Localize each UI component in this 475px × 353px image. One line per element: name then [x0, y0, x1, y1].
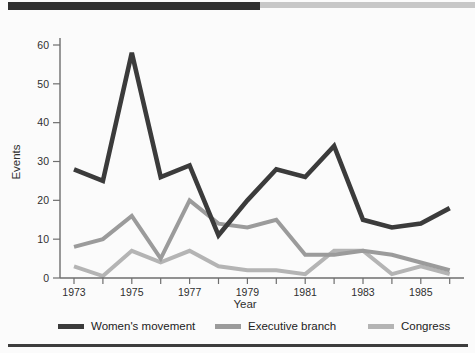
- legend-item: Executive branch: [215, 316, 336, 336]
- legend-swatch: [368, 324, 394, 329]
- legend-item: Women's movement: [58, 316, 195, 336]
- y-tick-label: 10: [37, 233, 49, 245]
- page-footer-rule: [8, 344, 468, 347]
- series-line-executive-branch: [74, 200, 450, 270]
- series-line-women-s-movement: [74, 53, 450, 236]
- y-tick-label: 20: [37, 194, 49, 206]
- y-tick-label: 60: [37, 39, 49, 51]
- x-axis-title: Year: [233, 298, 256, 310]
- header-bar-light: [260, 2, 475, 8]
- header-bar-dark: [8, 2, 260, 10]
- y-tick-label: 0: [43, 272, 49, 284]
- legend-label: Congress: [401, 320, 450, 332]
- legend-swatch: [58, 324, 84, 329]
- y-tick-label: 50: [37, 78, 49, 90]
- x-tick-label: 1977: [178, 286, 202, 298]
- y-axis-title: Events: [10, 144, 22, 179]
- page-header-rule: [8, 2, 475, 10]
- y-tick-label: 30: [37, 155, 49, 167]
- y-tick-label: 40: [37, 116, 49, 128]
- x-axis-ticks: 1973197519771979198119831985: [62, 278, 449, 298]
- series-group: [74, 53, 450, 276]
- x-tick-label: 1981: [294, 286, 318, 298]
- legend-label: Women's movement: [91, 320, 195, 332]
- chart-legend: Women's movementExecutive branchCongress: [0, 316, 475, 336]
- legend-item: Congress: [368, 316, 450, 336]
- x-tick-label: 1979: [236, 286, 260, 298]
- x-tick-label: 1985: [409, 286, 433, 298]
- line-chart: 0102030405060 19731975197719791981198319…: [0, 12, 475, 312]
- x-tick-label: 1973: [62, 286, 86, 298]
- x-tick-label: 1975: [120, 286, 144, 298]
- legend-swatch: [215, 324, 241, 329]
- x-tick-label: 1983: [351, 286, 375, 298]
- legend-label: Executive branch: [248, 320, 336, 332]
- figure-page: 0102030405060 19731975197719791981198319…: [0, 0, 475, 353]
- y-axis-ticks: 0102030405060: [37, 39, 60, 284]
